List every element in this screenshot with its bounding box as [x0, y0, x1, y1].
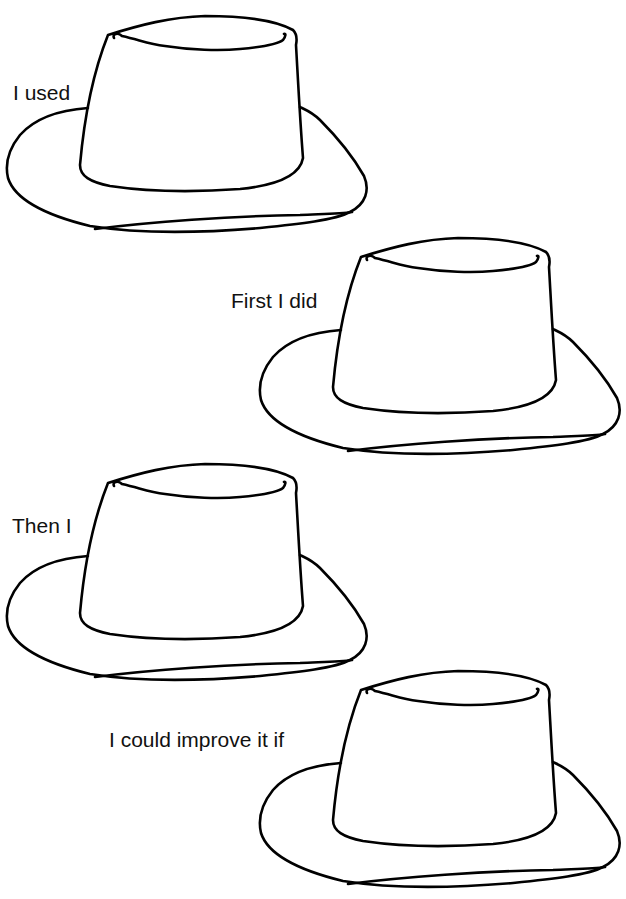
prompt-label: I used [13, 82, 70, 103]
hat-icon [0, 0, 370, 240]
hat-drawing-4 [253, 655, 623, 895]
prompt-label: I could improve it if [109, 729, 284, 750]
hat-icon [253, 655, 623, 895]
hat-drawing-1 [0, 0, 370, 240]
prompt-label: First I did [231, 290, 317, 311]
prompt-label: Then I [12, 515, 72, 536]
hat-drawing-3 [0, 448, 370, 688]
hat-drawing-2 [253, 222, 623, 462]
hat-icon [0, 448, 370, 688]
hat-icon [253, 222, 623, 462]
